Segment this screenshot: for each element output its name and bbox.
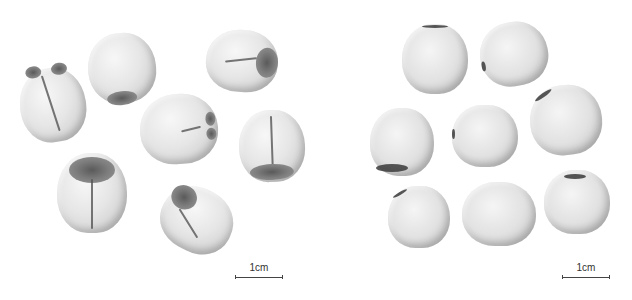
right-panel-hulled-seeds: 1cm: [340, 0, 632, 300]
scale-bar-label: 1cm: [235, 262, 283, 273]
seed: [149, 174, 244, 265]
scale-bar-line: [235, 277, 283, 278]
seed: [138, 91, 221, 166]
seed: [527, 81, 606, 158]
seed: [475, 17, 553, 92]
seed: [462, 182, 536, 246]
seed: [402, 24, 468, 94]
figure-canvas: 1cm 1cm: [0, 0, 632, 300]
seed: [544, 170, 610, 234]
seed: [204, 28, 280, 95]
seed: [238, 109, 306, 183]
seed: [85, 30, 160, 107]
scale-bar-right: 1cm: [562, 262, 610, 284]
seed: [388, 186, 450, 248]
seed: [452, 105, 518, 167]
seed: [57, 153, 127, 233]
scale-bar-line: [562, 277, 610, 278]
scale-bar-left: 1cm: [235, 262, 283, 284]
seed: [370, 108, 434, 176]
scale-bar-label: 1cm: [562, 262, 610, 273]
seed: [15, 64, 91, 146]
left-panel-unhulled-seeds: 1cm: [0, 0, 320, 300]
